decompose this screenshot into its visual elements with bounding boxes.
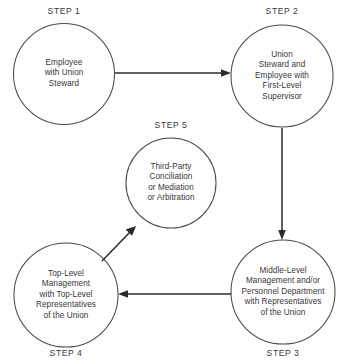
node-circle-step3[interactable] [231, 240, 335, 344]
connector-step2-to-step3 [278, 128, 286, 240]
flow-diagram-canvas [0, 0, 342, 364]
step-caption-step3: STEP 3 [267, 348, 300, 358]
step-caption-step4: STEP 4 [50, 348, 83, 358]
node-circle-step1[interactable] [14, 24, 115, 125]
connector-step3-to-step4 [118, 290, 231, 298]
connector-step1-to-step2 [115, 69, 231, 77]
step-caption-step2: STEP 2 [266, 6, 299, 16]
grievance-procedure-diagram: Employee with Union Steward Union Stewar… [0, 0, 342, 364]
step-caption-step1: STEP 1 [48, 6, 81, 16]
connector-step4-to-step5 [102, 226, 136, 261]
node-circle-step5[interactable] [126, 138, 216, 228]
node-circle-step2[interactable] [231, 25, 333, 127]
node-circle-step4[interactable] [14, 243, 118, 347]
step-caption-step5: STEP 5 [155, 120, 188, 130]
